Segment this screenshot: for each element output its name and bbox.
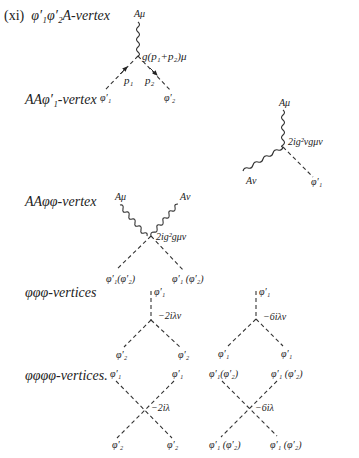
momentum-p1: p₁ <box>123 74 134 86</box>
coupling-label: −6iλ <box>255 402 275 413</box>
leg-bottom-right: φ′₁ <box>281 348 292 359</box>
leg-bottom-left: φ′₁(φ′₂) <box>106 273 136 285</box>
diagram-phi4-a: φ′₁ φ′₁ −2iλ φ′₂ φ′₂ <box>110 368 183 450</box>
label-A-nu: Aν <box>179 191 191 202</box>
leg-bottom-left: φ′₂ <box>112 439 124 450</box>
label-A-mu: Aμ <box>133 8 145 19</box>
momentum-p2: p₂ <box>144 74 155 86</box>
leg-top-left: φ′₁ <box>110 368 121 379</box>
leg-bottom-left: φ′₂ <box>116 349 128 360</box>
leg-bottom-right: φ′₂ <box>178 349 190 360</box>
scalar-line-left <box>228 319 256 346</box>
label-A-mu: Aμ <box>278 97 290 108</box>
leg-bottom-right: φ′₁ (φ′₂) <box>172 273 204 285</box>
label-A-mu: Aμ <box>114 191 126 202</box>
diagram-phi3-b: φ′₁ −6iλv φ′₁ φ′₁ <box>218 286 292 359</box>
diagram-phi3-a: φ′₁ −2iλv φ′₂ φ′₂ <box>116 286 190 360</box>
leg-bottom-right: φ′₁ (φ′₂) <box>270 439 302 451</box>
label-A-nu: Aν <box>245 175 257 186</box>
scalar-line <box>283 147 313 177</box>
leg-top: φ′₁ <box>154 286 165 297</box>
coupling-label: g(p₁+p₂)μ <box>142 50 187 63</box>
scalar-line-right <box>151 320 180 347</box>
coupling-label: −2iλv <box>158 310 182 321</box>
leg-phi2: φ′₂ <box>164 92 176 103</box>
scalar-line-left <box>116 236 151 270</box>
leg-bottom-right: φ′₂ <box>167 439 179 450</box>
coupling-label: −6iλv <box>263 311 287 322</box>
leg-top-right: φ′₁ <box>172 368 183 379</box>
leg-top-left: φ′₁(φ′₂) <box>209 368 239 380</box>
feynman-diagrams: Aμ g(p₁+p₂)μ p₁ p₂ φ′₁ φ′₂ Aμ Aν φ′₁ 2ig… <box>0 0 359 458</box>
leg-bottom-left: φ′₁ <box>218 348 229 359</box>
diagram-phi4-b: φ′₁(φ′₂) φ′₁ (φ′₂) −6iλ φ′₁ (φ′₂) φ′₁ (φ… <box>209 368 303 451</box>
leg-top-right: φ′₁ (φ′₂) <box>271 368 303 380</box>
photon-line-left <box>243 147 283 171</box>
label-phi1: φ′₁ <box>311 176 322 187</box>
photon-line <box>137 22 140 56</box>
leg-bottom-left: φ′₁ (φ′₂) <box>209 439 241 451</box>
leg-phi1: φ′₁ <box>100 92 111 103</box>
diagram-phi-phi-A: Aμ g(p₁+p₂)μ p₁ p₂ φ′₁ φ′₂ <box>100 8 187 103</box>
leg-top: φ′₁ <box>259 286 270 297</box>
coupling-label: 2ig²gμν <box>156 231 187 242</box>
photon-line-top <box>282 110 285 147</box>
diagram-A-A-phi1: Aμ Aν φ′₁ 2ig²vgμν <box>243 97 323 187</box>
coupling-label: 2ig²vgμν <box>288 136 323 147</box>
photon-line-left <box>120 205 147 236</box>
coupling-label: −2iλ <box>151 402 171 413</box>
diagram-A-A-phi-phi: Aμ Aν 2ig²gμν φ′₁(φ′₂) φ′₁ (φ′₂) <box>106 191 204 285</box>
scalar-line-left <box>124 320 151 347</box>
scalar-line-right <box>256 319 283 346</box>
